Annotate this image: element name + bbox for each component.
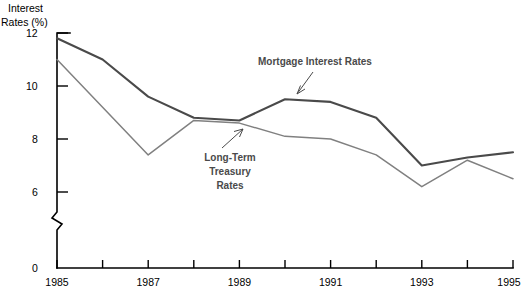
y-axis: 12 10 8 6 0 [26, 27, 70, 274]
y-tick-label-12: 12 [26, 27, 38, 39]
treasury-annotation: Long-Term Treasury Rates [204, 129, 256, 191]
mortgage-annotation-label: Mortgage Interest Rates [258, 56, 372, 67]
x-axis: 1985 1987 1989 1991 1993 1995 [45, 260, 521, 288]
interest-rates-line-chart: Interest Rates (%) 12 10 8 6 0 [0, 0, 525, 298]
y-tick-label-8: 8 [32, 133, 38, 145]
x-tick-label-1991: 1991 [319, 276, 343, 288]
y-tick-label-10: 10 [26, 80, 38, 92]
treasury-annotation-label-line3: Rates [216, 180, 244, 191]
treasury-annotation-label-line1: Long-Term [204, 152, 256, 163]
y-tick-label-0: 0 [32, 262, 38, 274]
y-axis-label-line1: Interest [8, 2, 43, 14]
mortgage-annotation: Mortgage Interest Rates [258, 56, 372, 94]
x-tick-label-1987: 1987 [137, 276, 161, 288]
x-tick-label-1993: 1993 [410, 276, 434, 288]
y-tick-label-6: 6 [32, 186, 38, 198]
y-axis-label-line2: Rates (%) [1, 16, 48, 28]
x-tick-label-1989: 1989 [228, 276, 252, 288]
chart-canvas: Interest Rates (%) 12 10 8 6 0 [0, 0, 525, 298]
x-tick-label-1985: 1985 [45, 276, 69, 288]
x-tick-label-1995: 1995 [497, 276, 521, 288]
treasury-annotation-label-line2: Treasury [209, 166, 251, 177]
